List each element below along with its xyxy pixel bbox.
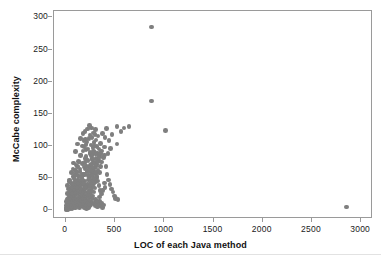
scatter-point <box>73 149 78 154</box>
scatter-point <box>108 146 113 151</box>
scatter-point <box>97 183 102 188</box>
scatter-point <box>94 138 99 143</box>
scatter-point <box>113 196 118 201</box>
scatter-point <box>85 127 90 132</box>
scatter-point <box>149 25 154 30</box>
scatter-point <box>98 141 103 146</box>
x-tick-label: 2500 <box>301 224 321 234</box>
scatter-point <box>105 172 110 177</box>
scatter-point <box>149 99 154 104</box>
scatter-point <box>108 182 113 187</box>
scatter-point <box>107 138 112 143</box>
y-tick-mark <box>48 209 52 210</box>
y-tick-label: 200 <box>33 76 48 86</box>
y-tick-mark <box>48 145 52 146</box>
scatter-point <box>84 164 89 169</box>
y-tick-mark <box>48 49 52 50</box>
scatter-point <box>67 179 72 184</box>
y-tick-label: 50 <box>38 172 48 182</box>
x-tick-label: 0 <box>62 224 67 234</box>
scatter-points-layer <box>54 11 371 217</box>
scatter-point <box>95 199 100 204</box>
x-tick-label: 1000 <box>153 224 173 234</box>
scatter-point <box>88 181 93 186</box>
x-tick-mark <box>262 218 263 222</box>
y-tick-mark <box>48 113 52 114</box>
x-tick-mark <box>213 218 214 222</box>
scatter-point <box>101 203 106 208</box>
scatter-point <box>75 142 80 147</box>
scatter-point <box>127 124 132 129</box>
x-tick-mark <box>114 218 115 222</box>
scatter-point <box>100 131 105 136</box>
scatter-point <box>87 202 92 207</box>
x-tick-mark <box>360 218 361 222</box>
scatter-point <box>91 131 96 136</box>
x-tick-label: 2000 <box>252 224 272 234</box>
x-tick-mark <box>65 218 66 222</box>
scatter-point <box>83 185 88 190</box>
x-tick-label: 3000 <box>350 224 370 234</box>
scatter-chart-figure: McCabe complexity 050100150200250300 050… <box>0 0 381 261</box>
x-tick-label: 1500 <box>203 224 223 234</box>
scatter-point <box>119 129 124 134</box>
x-axis-label: LOC of each Java method <box>0 240 381 250</box>
scatter-point <box>115 124 120 129</box>
scatter-point <box>92 144 97 149</box>
y-tick-label: 300 <box>33 11 48 21</box>
y-tick-label: 150 <box>33 108 48 118</box>
bottom-divider <box>0 254 381 255</box>
scatter-point <box>344 205 349 210</box>
scatter-point <box>104 164 109 169</box>
y-tick-label: 100 <box>33 140 48 150</box>
x-tick-mark <box>311 218 312 222</box>
scatter-point <box>163 128 168 133</box>
y-tick-mark <box>48 81 52 82</box>
scatter-point <box>115 142 120 147</box>
y-tick-mark <box>48 177 52 178</box>
y-tick-mark <box>48 16 52 17</box>
y-axis-tick-labels: 050100150200250300 <box>0 0 48 261</box>
scatter-point <box>104 126 109 131</box>
scatter-point <box>110 132 115 137</box>
plot-area <box>53 10 372 218</box>
scatter-point <box>96 134 101 139</box>
scatter-point <box>78 187 83 192</box>
x-tick-mark <box>163 218 164 222</box>
y-tick-label: 250 <box>33 44 48 54</box>
x-tick-label: 500 <box>107 224 122 234</box>
